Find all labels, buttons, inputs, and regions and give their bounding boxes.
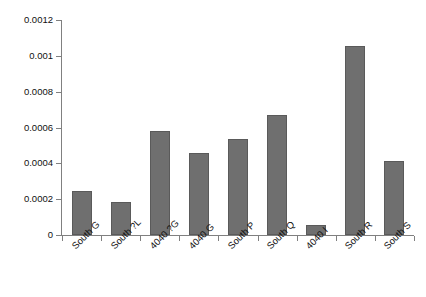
x-axis-tick — [414, 236, 415, 241]
bar-chart: 00.00020.00040.00060.00080.0010.0012 Sou… — [0, 0, 426, 297]
x-axis-tick — [336, 236, 337, 241]
y-axis-tick-label: 0 — [0, 230, 53, 240]
y-axis-tick — [56, 235, 61, 236]
x-axis-tick — [62, 236, 63, 241]
y-axis-tick — [56, 163, 61, 164]
y-axis-tick — [56, 128, 61, 129]
x-axis-tick — [101, 236, 102, 241]
y-axis-tick — [56, 199, 61, 200]
y-axis-tick-label: 0.0004 — [0, 158, 53, 168]
x-axis-tick — [218, 236, 219, 241]
y-axis-tick-label: 0.0012 — [0, 15, 53, 25]
bar — [150, 131, 170, 235]
plot-area — [62, 20, 414, 235]
bar — [267, 115, 287, 235]
x-axis-tick — [179, 236, 180, 241]
x-axis-tick — [258, 236, 259, 241]
bar — [228, 139, 248, 235]
y-axis-tick — [56, 92, 61, 93]
y-axis-tick-label: 0.0008 — [0, 87, 53, 97]
x-axis-tick — [140, 236, 141, 241]
y-axis-tick-label: 0.001 — [0, 51, 53, 61]
y-axis-tick — [56, 20, 61, 21]
y-axis-tick-label: 0.0002 — [0, 194, 53, 204]
x-axis-tick — [375, 236, 376, 241]
bar — [345, 46, 365, 235]
y-axis-tick — [56, 56, 61, 57]
x-axis-tick — [297, 236, 298, 241]
y-axis-tick-label: 0.0006 — [0, 123, 53, 133]
